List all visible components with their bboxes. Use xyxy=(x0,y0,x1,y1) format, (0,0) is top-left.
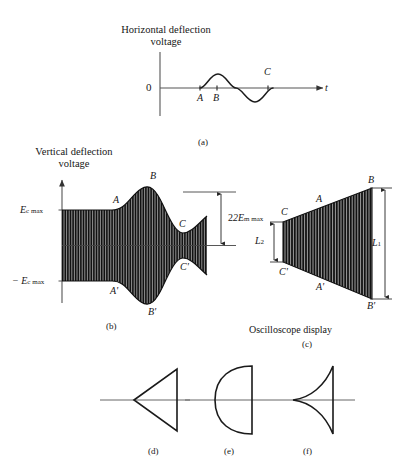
panel-c-l1-subscript: 1 xyxy=(378,240,382,248)
panel-c-l1-label: L1 xyxy=(372,237,381,249)
panel-c-label-c: C xyxy=(281,206,288,217)
panel-a-x-axis-label: t xyxy=(325,82,328,93)
panel-c-title: Oscilloscope display xyxy=(249,324,332,335)
panel-b-label-b: B xyxy=(150,170,156,181)
panel-c-trace-fill xyxy=(283,186,373,302)
panel-a-label-a: A xyxy=(197,92,203,103)
panel-b-label-c: C xyxy=(179,218,186,229)
panel-b-lower-level-subscript: c max xyxy=(27,278,44,286)
panel-b-axis-title: Vertical deflection voltage xyxy=(14,146,134,170)
panel-b-dimension-symbol: 2E xyxy=(233,212,244,223)
panel-c-label-b-prime: B' xyxy=(367,300,375,311)
panel-e-graph xyxy=(185,366,268,434)
panel-a-graph xyxy=(160,52,323,116)
panel-b-dimension-label: 22Em max xyxy=(228,212,263,224)
figure-root: Horizontal deflection voltage 0 t A B C … xyxy=(0,0,402,472)
panel-a-label-b: B xyxy=(213,92,219,103)
panel-c-l2-label: L2 xyxy=(255,235,264,247)
panel-d-graph xyxy=(100,369,190,431)
panel-c-caption: (c) xyxy=(302,339,312,349)
panel-a-axis-title: Horizontal deflection voltage xyxy=(96,24,236,48)
panel-b-lower-level-label: − Ec max xyxy=(12,275,44,287)
panel-f-graph xyxy=(268,366,355,434)
figure-vector-layer xyxy=(0,0,402,472)
panel-f-caption: (f) xyxy=(303,446,312,456)
panel-b-label-a: A xyxy=(113,194,119,205)
panel-b-label-c-prime: C' xyxy=(180,261,189,272)
panel-b-upper-level-subscript: c max xyxy=(26,207,43,215)
panel-a-caption: (a) xyxy=(198,137,208,147)
panel-d-caption: (d) xyxy=(148,446,159,456)
panel-b-lower-level-symbol: − E xyxy=(12,275,27,286)
panel-a-origin-label: 0 xyxy=(146,81,152,93)
panel-b-dimension-subscript: m max xyxy=(244,215,263,223)
panel-b-carrier-fill xyxy=(62,180,210,310)
panel-b-label-b-prime: B' xyxy=(148,306,156,317)
panel-b-caption: (b) xyxy=(106,321,117,331)
panel-c-label-a: A xyxy=(316,193,322,204)
panel-b-graph xyxy=(59,180,237,310)
panel-c-label-b: B xyxy=(368,174,374,185)
panel-c-l2-subscript: 2 xyxy=(261,238,265,246)
panel-e-caption: (e) xyxy=(224,446,234,456)
panel-c-label-c-prime: C' xyxy=(279,266,288,277)
panel-a-label-c: C xyxy=(264,66,271,77)
panel-b-upper-level-label: Ec max xyxy=(20,204,43,216)
panel-c-label-a-prime: A' xyxy=(316,281,324,292)
panel-b-label-a-prime: A' xyxy=(110,285,118,296)
